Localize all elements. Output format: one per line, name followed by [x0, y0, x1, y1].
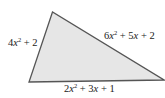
bottom-side-label: 2x2 + 3x + 1 — [64, 84, 115, 95]
triangle-shape — [29, 12, 164, 82]
right-side-label: 6x2 + 5x + 2 — [104, 31, 155, 42]
bottom-rest-a: + 3 — [77, 83, 93, 94]
right-rest-a: + 5 — [117, 30, 133, 41]
left-side-label: 4x2 + 2 — [8, 38, 38, 49]
right-rest-b: + 2 — [138, 30, 154, 41]
bottom-rest-b: + 1 — [98, 83, 114, 94]
left-rest: + 2 — [21, 37, 37, 48]
